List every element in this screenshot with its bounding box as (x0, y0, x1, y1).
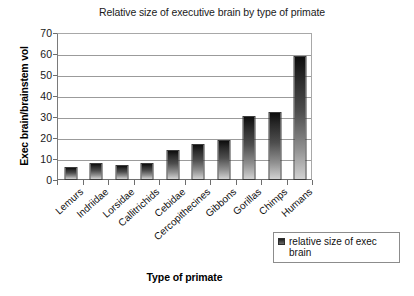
legend-entry: relative size of exec brain (278, 236, 395, 258)
x-axis-tick-mark (210, 180, 211, 185)
filled-square-marker-icon (278, 238, 285, 245)
x-axis-tick-mark (57, 180, 58, 185)
bar-slot (186, 33, 212, 180)
y-axis-tick-mark (53, 117, 57, 118)
y-axis-tick-mark (53, 96, 57, 97)
x-axis-tick-mark (312, 180, 313, 185)
bar[interactable] (90, 163, 103, 180)
legend-entry-label: relative size of exec brain (289, 236, 395, 258)
bar-slot (211, 33, 237, 180)
bar-slot (160, 33, 186, 180)
bar[interactable] (141, 163, 154, 180)
y-axis-tick-label: 40 (12, 91, 52, 101)
x-axis-tick-mark (83, 180, 84, 185)
bar-slot (288, 33, 314, 180)
bar-chart: Relative size of executive brain by type… (0, 0, 414, 296)
bar[interactable] (268, 112, 281, 180)
y-axis-tick-label: 70 (12, 28, 52, 38)
x-axis-tick-mark (134, 180, 135, 185)
y-axis-tick-label: 10 (12, 154, 52, 164)
y-axis-tick-label: 60 (12, 49, 52, 59)
y-axis-tick-mark (53, 33, 57, 34)
bar-slot (84, 33, 110, 180)
x-axis-tick-mark (108, 180, 109, 185)
bar-slot (262, 33, 288, 180)
bar[interactable] (166, 150, 179, 180)
x-axis-title: Type of primate (57, 271, 312, 283)
x-axis-tick-mark (159, 180, 160, 185)
bar[interactable] (243, 116, 256, 180)
bar-slot (135, 33, 161, 180)
bar[interactable] (64, 167, 77, 180)
bar[interactable] (294, 56, 307, 180)
bar-slot (109, 33, 135, 180)
chart-title: Relative size of executive brain by type… (57, 6, 367, 18)
x-axis-tick-mark (287, 180, 288, 185)
bar[interactable] (115, 165, 128, 180)
bar-slot (237, 33, 263, 180)
y-axis-tick-mark (53, 75, 57, 76)
y-axis-tick-label: 50 (12, 70, 52, 80)
bar-slot (58, 33, 84, 180)
y-axis-tick-label: 20 (12, 133, 52, 143)
x-axis-tick-mark (261, 180, 262, 185)
bar[interactable] (192, 144, 205, 180)
chart-legend: relative size of exec brain (273, 232, 400, 263)
bar[interactable] (217, 140, 230, 180)
y-axis-tick-mark (53, 138, 57, 139)
x-axis-tick-mark (236, 180, 237, 185)
y-axis-tick-mark (53, 54, 57, 55)
y-axis-tick-label: 0 (12, 175, 52, 185)
y-axis-tick-mark (53, 159, 57, 160)
x-axis-tick-mark (185, 180, 186, 185)
bars-layer (58, 33, 311, 180)
y-axis-tick-label: 30 (12, 112, 52, 122)
